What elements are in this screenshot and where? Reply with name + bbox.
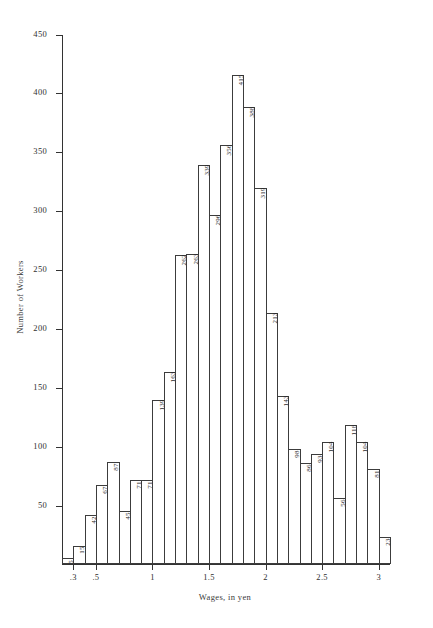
y-tick-label: 350 (33, 146, 47, 156)
bar-value-label: 81 (374, 470, 381, 477)
bar-value-label: 23 (385, 538, 392, 545)
y-axis-label: Number of Workers (15, 237, 25, 357)
x-axis-spine (62, 564, 390, 565)
y-tick-400: 400 (56, 93, 63, 94)
y-tick-label: 250 (33, 264, 47, 274)
x-tick-2 (266, 565, 267, 570)
y-tick-label: 400 (33, 87, 47, 97)
x-tick-label: 2 (263, 572, 268, 582)
y-tick-label: 100 (33, 441, 47, 451)
x-axis-label: Wages, in yen (120, 592, 330, 602)
x-tick-1.5 (209, 565, 210, 570)
y-tick-label: 450 (33, 29, 47, 39)
plot-area: 50100150200250300350400450 .3.511.522.53… (62, 35, 390, 565)
y-axis-spine (62, 35, 63, 565)
bar: 23 (379, 537, 391, 564)
x-tick-label: .3 (70, 572, 77, 582)
y-tick-100: 100 (56, 447, 63, 448)
x-tick-label: 1 (150, 572, 155, 582)
x-tick-label: 3 (376, 572, 381, 582)
histogram-figure: Number of Workers 5010015020025030035040… (0, 0, 433, 628)
y-tick-350: 350 (56, 152, 63, 153)
y-tick-300: 300 (56, 211, 63, 212)
bar-value-label: 98 (294, 450, 301, 457)
y-tick-label: 300 (33, 205, 47, 215)
x-tick-1 (152, 565, 153, 570)
x-tick-2.5 (322, 565, 323, 570)
bar-value-label: 104 (362, 441, 369, 452)
bar-value-label: 118 (351, 425, 358, 436)
y-tick-50: 50 (56, 506, 63, 507)
y-tick-label: 150 (33, 382, 47, 392)
y-tick-label: 50 (38, 500, 47, 510)
bar-value-label: 213 (272, 313, 279, 324)
x-tick-label: .5 (92, 572, 99, 582)
x-tick-.3 (73, 565, 74, 570)
y-tick-label: 200 (33, 323, 47, 333)
x-tick-3 (379, 565, 380, 570)
bar-value-label: 339 (204, 164, 211, 175)
y-tick-450: 450 (56, 35, 63, 36)
y-tick-250: 250 (56, 270, 63, 271)
bar-value-label: 104 (328, 441, 335, 452)
y-tick-150: 150 (56, 388, 63, 389)
bar-value-label: 388 (249, 106, 256, 117)
y-tick-200: 200 (56, 329, 63, 330)
x-tick-.5 (96, 565, 97, 570)
x-tick-label: 2.5 (316, 572, 328, 582)
x-tick-label: 1.5 (203, 572, 215, 582)
bar-value-label: 415 (238, 75, 245, 86)
bar-value-label: 319 (260, 188, 267, 199)
bar-value-label: 87 (113, 463, 120, 470)
bar-value-label: 143 (283, 395, 290, 406)
